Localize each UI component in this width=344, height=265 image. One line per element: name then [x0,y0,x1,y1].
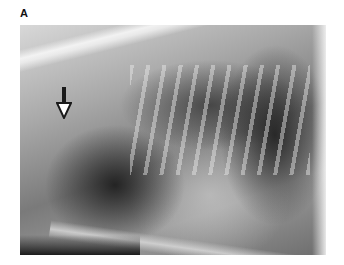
diaphragm-edge [312,25,326,255]
ribs-region [130,65,310,175]
panel-label: A [20,7,28,19]
down-arrow-icon [56,87,72,119]
lower-soft-tissue-region [20,235,140,255]
radiograph-image [20,25,326,255]
